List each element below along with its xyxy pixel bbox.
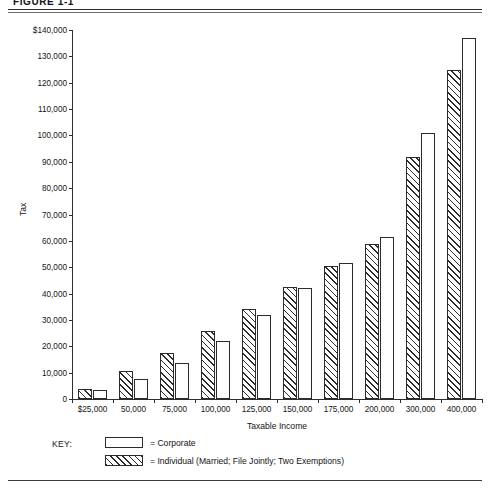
y-tick-mark	[69, 346, 73, 347]
x-tick-label: 50,000	[121, 405, 146, 414]
bar-corporate	[93, 390, 108, 399]
y-tick-mark	[69, 267, 73, 268]
bar-corporate	[298, 288, 313, 399]
x-tick-mark	[441, 399, 442, 403]
x-tick-mark	[277, 399, 278, 403]
x-tick-mark	[359, 399, 360, 403]
bar-corporate	[339, 263, 354, 399]
bar-individual	[365, 244, 380, 400]
header-rule	[8, 9, 482, 10]
x-tick-mark	[482, 399, 483, 403]
header-rule-secondary	[8, 12, 482, 13]
bar-individual	[119, 371, 134, 399]
x-tick-label: 400,000	[447, 405, 477, 414]
bar-individual	[78, 389, 93, 399]
y-tick-mark	[69, 83, 73, 84]
x-tick-mark	[113, 399, 114, 403]
x-tick-label: 100,000	[201, 405, 231, 414]
x-tick-mark	[154, 399, 155, 403]
x-axis-title: Taxable Income	[72, 421, 482, 431]
figure-container: FIGURE 1-1 010,00020,00030,00040,00050,0…	[0, 0, 490, 494]
y-tick-label: 10,000	[42, 368, 67, 377]
x-tick-label: $25,000	[78, 405, 108, 414]
x-tick-label: 150,000	[283, 405, 313, 414]
y-tick-label: 30,000	[42, 315, 67, 324]
bar-individual	[324, 266, 339, 399]
legend-swatch-individual	[105, 455, 143, 466]
x-tick-mark	[195, 399, 196, 403]
bar-corporate	[462, 38, 477, 399]
y-tick-label: $140,000	[33, 26, 67, 35]
figure-title: FIGURE 1-1	[13, 0, 74, 7]
footer-rule	[8, 480, 482, 481]
y-tick-mark	[69, 215, 73, 216]
y-tick-label: 100,000	[37, 131, 67, 140]
y-tick-label: 40,000	[42, 289, 67, 298]
x-tick-mark	[236, 399, 237, 403]
x-tick-label: 200,000	[365, 405, 395, 414]
bar-individual	[447, 70, 462, 399]
legend-key-label: KEY:	[52, 439, 72, 449]
y-tick-mark	[69, 320, 73, 321]
y-tick-label: 90,000	[42, 157, 67, 166]
y-tick-label: 20,000	[42, 342, 67, 351]
x-tick-mark	[318, 399, 319, 403]
y-tick-label: 110,000	[38, 105, 67, 114]
bar-corporate	[421, 133, 436, 399]
x-tick-label: 125,000	[242, 405, 272, 414]
bar-individual	[201, 331, 216, 399]
y-tick-label: 0	[62, 395, 67, 404]
x-tick-mark	[72, 399, 73, 403]
bar-individual	[242, 309, 257, 399]
y-tick-mark	[69, 162, 73, 163]
y-tick-mark	[69, 56, 73, 57]
y-tick-mark	[69, 30, 73, 31]
legend-swatch-corporate	[105, 437, 143, 448]
x-tick-mark	[400, 399, 401, 403]
y-tick-label: 80,000	[42, 184, 67, 193]
y-tick-mark	[69, 109, 73, 110]
y-tick-label: 50,000	[42, 263, 67, 272]
bar-corporate	[216, 341, 231, 399]
bar-corporate	[175, 363, 190, 399]
bar-corporate	[257, 315, 272, 399]
x-tick-label: 300,000	[406, 405, 436, 414]
y-tick-mark	[69, 241, 73, 242]
y-axis-title: Tax	[18, 203, 28, 216]
bar-individual	[160, 353, 175, 399]
bar-individual	[406, 157, 421, 399]
legend-label-individual: = Individual (Married; File Jointly; Two…	[150, 456, 344, 466]
y-tick-mark	[69, 294, 73, 295]
y-tick-label: 70,000	[42, 210, 67, 219]
legend-label-corporate: = Corporate	[150, 438, 196, 448]
x-tick-label: 175,000	[324, 405, 354, 414]
y-tick-label: 130,000	[37, 52, 67, 61]
bar-corporate	[380, 237, 395, 399]
y-tick-mark	[69, 373, 73, 374]
chart-plot-area: 010,00020,00030,00040,00050,00060,00070,…	[72, 30, 482, 399]
x-tick-label: 75,000	[162, 405, 187, 414]
y-tick-label: 60,000	[42, 236, 67, 245]
y-tick-mark	[69, 135, 73, 136]
bar-individual	[283, 287, 298, 399]
bar-corporate	[134, 379, 149, 399]
y-tick-label: 120,000	[37, 78, 67, 87]
y-tick-mark	[69, 188, 73, 189]
y-axis-line	[72, 30, 73, 399]
